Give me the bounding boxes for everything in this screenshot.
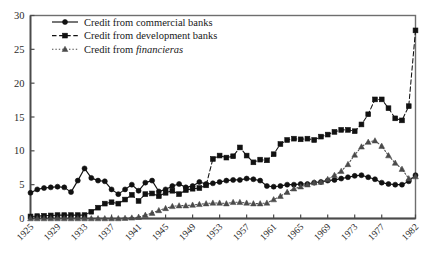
data-point <box>62 185 67 190</box>
data-point <box>102 179 107 184</box>
data-point <box>400 118 405 123</box>
data-point <box>298 137 303 142</box>
data-point <box>231 177 236 182</box>
data-point <box>406 104 411 109</box>
data-point <box>210 157 215 162</box>
data-point <box>197 179 202 184</box>
data-point <box>379 180 384 185</box>
data-point <box>237 145 242 150</box>
y-axis-tick-label: 15 <box>14 112 25 123</box>
data-point <box>264 184 269 189</box>
data-point <box>129 182 134 187</box>
data-point <box>156 189 161 194</box>
data-point <box>366 112 371 117</box>
data-point <box>352 173 357 178</box>
data-point <box>386 106 391 111</box>
data-point <box>42 186 47 191</box>
y-axis-tick-label: 20 <box>14 78 25 89</box>
data-point <box>150 191 155 196</box>
credit-sources-line-chart: 051015202530 192519291933193719411945194… <box>0 0 429 256</box>
data-point <box>170 188 175 193</box>
data-point <box>150 178 155 183</box>
data-point <box>393 116 398 121</box>
data-point <box>82 166 87 171</box>
data-point <box>109 187 114 192</box>
data-point <box>28 190 33 195</box>
data-point <box>177 181 182 186</box>
data-point <box>96 178 101 183</box>
data-point <box>312 138 317 143</box>
data-point <box>352 129 357 134</box>
data-point <box>251 177 256 182</box>
data-point <box>393 182 398 187</box>
legend-item-label: Credit from commercial banks <box>84 17 213 28</box>
legend-marker-circle-icon <box>63 20 68 25</box>
data-point <box>372 177 377 182</box>
data-point <box>413 28 418 33</box>
data-point <box>251 160 256 165</box>
data-point <box>89 209 94 214</box>
data-point <box>271 152 276 157</box>
data-point <box>197 186 202 191</box>
data-point <box>285 138 290 143</box>
y-axis-tick-label: 30 <box>14 10 25 21</box>
data-point <box>123 187 128 192</box>
data-point <box>116 201 121 206</box>
data-point <box>292 136 297 141</box>
data-point <box>237 177 242 182</box>
data-point <box>244 176 249 181</box>
data-point <box>123 197 128 202</box>
data-point <box>116 192 121 197</box>
data-point <box>170 184 175 189</box>
data-point <box>339 176 344 181</box>
data-point <box>177 192 182 197</box>
data-point <box>224 178 229 183</box>
y-axis-tick-label: 10 <box>14 145 25 156</box>
data-point <box>399 182 404 187</box>
data-point <box>204 183 209 188</box>
data-point <box>156 194 161 199</box>
y-axis-tick-label: 25 <box>14 44 25 55</box>
data-point <box>109 200 114 205</box>
data-point <box>346 127 351 132</box>
data-point <box>129 192 134 197</box>
data-point <box>190 186 195 191</box>
data-point <box>183 188 188 193</box>
data-point <box>48 185 53 190</box>
data-point <box>258 157 263 162</box>
data-point <box>285 182 290 187</box>
data-point <box>386 181 391 186</box>
data-point <box>332 177 337 182</box>
data-point <box>96 205 101 210</box>
data-point <box>69 190 74 195</box>
data-point <box>265 158 270 163</box>
data-point <box>278 184 283 189</box>
data-point <box>35 187 40 192</box>
data-point <box>217 153 222 158</box>
data-point <box>210 181 215 186</box>
data-point <box>244 153 249 158</box>
data-point <box>136 199 141 204</box>
data-point <box>359 173 364 178</box>
data-point <box>55 184 60 189</box>
data-point <box>345 175 350 180</box>
data-point <box>143 192 148 197</box>
data-point <box>136 188 141 193</box>
y-axis-tick-label: 0 <box>19 213 24 224</box>
data-point <box>373 97 378 102</box>
data-point <box>278 142 283 147</box>
data-point <box>359 122 364 127</box>
data-point <box>332 129 337 134</box>
data-point <box>325 132 330 137</box>
data-point <box>258 178 263 183</box>
legend-item-label: Credit from development banks <box>84 30 217 41</box>
data-point <box>102 201 107 206</box>
legend-marker-square-icon <box>63 33 68 38</box>
data-point <box>305 136 310 141</box>
data-point <box>271 184 276 189</box>
legend-item-label: Credit from financieras <box>84 44 183 55</box>
data-point <box>143 180 148 185</box>
data-point <box>231 154 236 159</box>
data-point <box>366 175 371 180</box>
data-point <box>89 175 94 180</box>
